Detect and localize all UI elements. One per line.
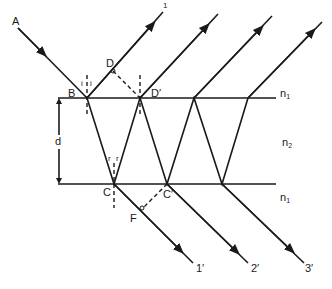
label-F: F — [130, 213, 137, 224]
label-C-prime: C′ — [163, 189, 173, 200]
medium-bottom-label: n1 — [280, 192, 290, 204]
angle-i-right: i — [90, 80, 92, 88]
medium-middle-label: n2 — [282, 137, 292, 149]
transmitted-label-3: 3′ — [305, 263, 313, 274]
film-zigzag-path — [87, 98, 248, 184]
medium-top-label: n1 — [280, 88, 290, 100]
arrow-up-icon — [56, 98, 62, 104]
label-d-thickness: d — [55, 136, 61, 147]
arrow-down-icon — [56, 178, 62, 184]
angle-i-left: i — [81, 80, 83, 88]
arrow-icon — [167, 184, 236, 251]
angle-r-left: r — [108, 155, 111, 163]
label-D-prime: D′ — [151, 88, 161, 99]
arrow-icon — [87, 25, 152, 98]
arrow-icon — [194, 29, 260, 98]
reflected-ray-label: 1 — [163, 2, 167, 10]
transmitted-label-1: 1′ — [196, 263, 204, 274]
incident-ray-arrow-icon — [18, 28, 43, 53]
line-D-to-D-prime — [113, 71, 140, 98]
label-B: B — [68, 88, 75, 99]
label-C: C — [103, 187, 111, 198]
label-A: A — [12, 16, 19, 27]
right-angle-marker-F — [140, 206, 144, 210]
transmitted-label-2: 2′ — [251, 263, 259, 274]
angle-r-right: r — [116, 155, 119, 163]
label-D: D — [106, 58, 114, 69]
arrow-icon — [140, 27, 206, 98]
